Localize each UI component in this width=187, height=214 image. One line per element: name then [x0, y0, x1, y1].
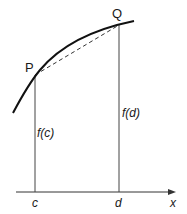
diagram-canvas: P Q f(c) f(d) c d x	[0, 0, 187, 214]
chord-pq	[35, 25, 119, 75]
tick-label-d: d	[115, 196, 122, 210]
axis-label-x: x	[169, 196, 177, 210]
label-f-d: f(d)	[122, 106, 140, 120]
x-axis-arrow-icon	[168, 189, 176, 195]
point-label-p: P	[25, 60, 34, 75]
point-label-q: Q	[112, 6, 122, 21]
tick-label-c: c	[32, 196, 38, 210]
label-f-c: f(c)	[37, 126, 54, 140]
secant-diagram: P Q f(c) f(d) c d x	[0, 0, 187, 214]
